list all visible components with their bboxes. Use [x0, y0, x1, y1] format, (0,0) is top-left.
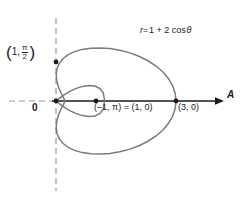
- point-label-1-pi-over-2: (1,π2): [6, 44, 35, 61]
- theta-symbol: θ: [187, 25, 192, 35]
- polar-plot-figure: r= 1 + 2 cos θ 0 A (3, 0) (–1, π) = (1, …: [0, 0, 241, 202]
- point-comma: ,: [17, 46, 20, 57]
- point-label-neg1-pi: (–1, π) = (1, 0): [94, 103, 152, 112]
- marker-point-1-pi-over-2: [54, 60, 59, 65]
- origin-label: 0: [32, 103, 38, 113]
- equation-rhs: 1 + 2 cos: [149, 25, 186, 35]
- marker-point-origin: [54, 99, 59, 104]
- fraction-numerator: π: [21, 44, 29, 52]
- equation-label: r= 1 + 2 cos θ: [140, 26, 191, 35]
- axis-arrowhead-icon: [215, 97, 224, 105]
- fraction-denominator: 2: [22, 52, 28, 61]
- polar-plot-svg: [0, 0, 241, 202]
- equation-equals: =: [143, 25, 148, 35]
- pi-over-2-fraction: π2: [21, 44, 29, 61]
- axis-label-A: A: [227, 90, 234, 100]
- point-label-3-0: (3, 0): [178, 103, 199, 112]
- paren-close: ): [30, 43, 36, 62]
